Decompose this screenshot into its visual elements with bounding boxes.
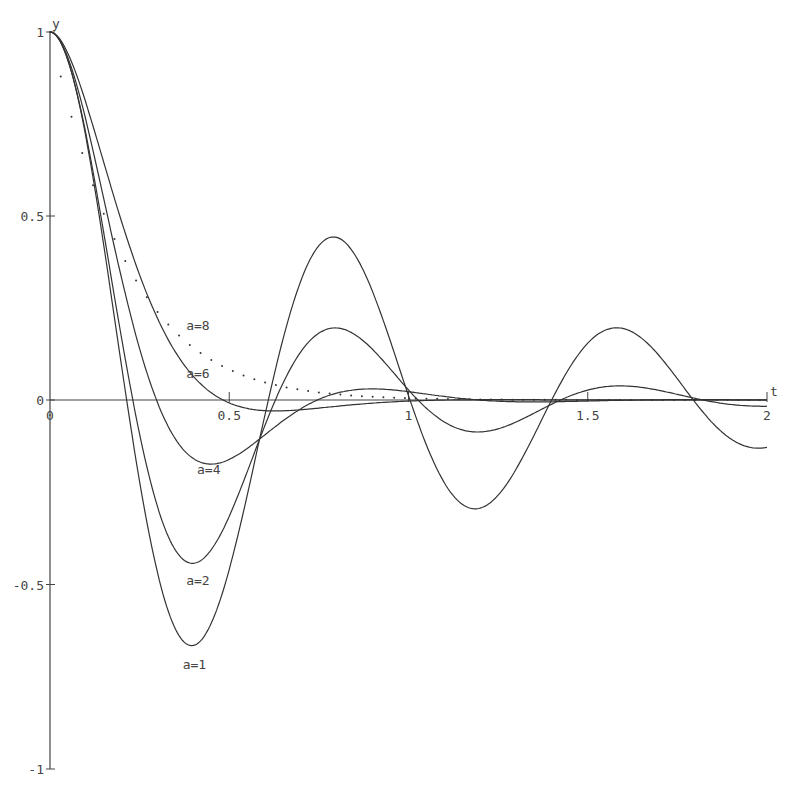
dotted-curve-point xyxy=(458,398,460,400)
series-label: a=8 xyxy=(186,318,209,333)
dotted-curve-point xyxy=(404,397,406,399)
dotted-curve-point xyxy=(146,296,148,298)
dotted-curve-point xyxy=(759,399,761,401)
dotted-curve-point xyxy=(737,399,739,401)
dotted-curve-point xyxy=(705,399,707,401)
dotted-curve-point xyxy=(361,395,363,397)
x-tick-label: 2 xyxy=(763,408,771,423)
axes: 10.50-0.5-100.511.52ty xyxy=(13,16,778,777)
x-tick-label: 0.5 xyxy=(218,408,241,423)
series-label: a=1 xyxy=(183,657,206,672)
dotted-curve-point xyxy=(296,388,298,390)
dotted-curve-point xyxy=(135,279,137,281)
series-label: a=2 xyxy=(186,573,209,588)
dotted-curve-point xyxy=(71,116,73,118)
curve-a-6 xyxy=(50,32,767,411)
dotted-curve-point xyxy=(200,352,202,354)
x-tick-label: 0 xyxy=(46,408,54,423)
dotted-curve-point xyxy=(329,393,331,395)
dotted-curve-point xyxy=(511,399,513,401)
dotted-curve-point xyxy=(533,399,535,401)
dotted-curve-point xyxy=(350,394,352,396)
dotted-curve-point xyxy=(641,399,643,401)
series-labels: a=1a=2a=4a=6a=8 xyxy=(183,318,221,672)
series-label: a=6 xyxy=(186,366,209,381)
dotted-curve-point xyxy=(415,397,417,399)
dotted-curve-point xyxy=(716,399,718,401)
dotted-curve-point xyxy=(92,184,94,186)
dotted-curve-point xyxy=(264,381,266,383)
x-axis-label: t xyxy=(770,384,778,399)
dotted-curve-point xyxy=(468,398,470,400)
x-tick-label: 1 xyxy=(405,408,413,423)
dotted-curve-point xyxy=(167,324,169,326)
y-tick-label: 0.5 xyxy=(21,209,44,224)
damped-oscillation-chart: 10.50-0.5-100.511.52ty a=1a=2a=4a=6a=8 xyxy=(0,0,785,790)
dotted-curve-point xyxy=(598,399,600,401)
x-tick-label: 1.5 xyxy=(576,408,599,423)
dotted-curve-point xyxy=(651,399,653,401)
dotted-curve-point xyxy=(103,213,105,215)
dotted-curve-point xyxy=(243,374,245,376)
dotted-curve-point xyxy=(157,311,159,313)
y-tick-label: -0.5 xyxy=(13,578,44,593)
y-axis-label: y xyxy=(52,16,60,31)
dotted-curve-point xyxy=(554,399,556,401)
dotted-curve-point xyxy=(339,394,341,396)
dotted-curve-point xyxy=(124,260,126,262)
dotted-curve-point xyxy=(630,399,632,401)
dotted-curve-point xyxy=(748,399,750,401)
dotted-curve-point xyxy=(436,398,438,400)
dotted-curve-point xyxy=(275,384,277,386)
dotted-curve-point xyxy=(673,399,675,401)
dotted-curve-point xyxy=(393,397,395,399)
dotted-curve-point xyxy=(425,398,427,400)
dotted-curve-point xyxy=(81,152,83,154)
dotted-curve-point xyxy=(178,335,180,337)
curve-a-2 xyxy=(50,32,767,563)
dotted-curve-point xyxy=(619,399,621,401)
dotted-curve-point xyxy=(490,399,492,401)
dotted-curve-point xyxy=(232,370,234,372)
dotted-curve-point xyxy=(501,399,503,401)
dotted-curve-point xyxy=(382,396,384,398)
dotted-curve-point xyxy=(447,398,449,400)
dotted-curve-point xyxy=(576,399,578,401)
dotted-curve-point xyxy=(522,399,524,401)
dotted-curve-point xyxy=(372,396,374,398)
dotted-curve-point xyxy=(114,238,116,240)
y-tick-label: -1 xyxy=(28,762,44,777)
dotted-curve-point xyxy=(662,399,664,401)
y-tick-label: 0 xyxy=(36,393,44,408)
dotted-curve-point xyxy=(608,399,610,401)
dotted-curve-point xyxy=(221,365,223,367)
dotted-curve-point xyxy=(479,398,481,400)
dotted-curve-point xyxy=(49,31,51,33)
curve-a-1 xyxy=(50,32,767,646)
dotted-curve-point xyxy=(189,344,191,346)
series-label: a=4 xyxy=(197,462,221,477)
dotted-curve-point xyxy=(210,359,212,361)
dotted-curve-point xyxy=(253,378,255,380)
curves xyxy=(49,31,767,646)
y-tick-label: 1 xyxy=(36,25,44,40)
dotted-curve-point xyxy=(307,390,309,392)
dotted-curve-point xyxy=(60,76,62,78)
dotted-curve-point xyxy=(587,399,589,401)
dotted-curve-point xyxy=(727,399,729,401)
dotted-curve-point xyxy=(694,399,696,401)
dotted-curve-point xyxy=(684,399,686,401)
dotted-curve-point xyxy=(544,399,546,401)
dotted-curve-point xyxy=(286,386,288,388)
dotted-curve-point xyxy=(318,391,320,393)
dotted-curve-point xyxy=(565,399,567,401)
